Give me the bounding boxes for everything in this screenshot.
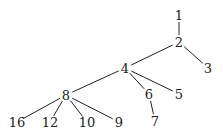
node-16: 16 (9, 115, 26, 130)
node-7: 7 (151, 114, 159, 129)
node-6: 6 (145, 87, 153, 102)
edge-4-8 (72, 71, 118, 92)
node-10: 10 (79, 115, 96, 130)
tree-diagram: 123456781612109 (0, 0, 223, 134)
edge-2-4 (131, 45, 172, 65)
edge-4-6 (130, 73, 145, 89)
node-8: 8 (62, 88, 70, 103)
node-4: 4 (121, 61, 129, 76)
tree-nodes: 123456781612109 (9, 8, 212, 130)
edge-6-7 (151, 101, 154, 114)
node-9: 9 (115, 115, 123, 130)
node-2: 2 (175, 35, 183, 50)
node-5: 5 (175, 87, 183, 102)
node-3: 3 (204, 61, 212, 76)
node-1: 1 (175, 8, 183, 23)
node-12: 12 (42, 115, 59, 130)
edge-2-3 (184, 47, 203, 64)
